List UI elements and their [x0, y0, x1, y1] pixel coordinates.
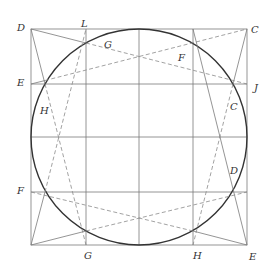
label-e-bottom-right: E: [248, 251, 257, 262]
line-e-to-c-dashed: [45, 29, 247, 81]
label-h-left: H: [39, 105, 49, 116]
line-bl-to-right-solid: [31, 231, 86, 245]
label-g-bottom: G: [84, 250, 92, 261]
line-bl-to-right-dashed: [86, 192, 247, 231]
label-d-right: D: [229, 165, 238, 176]
label-l-top: L: [80, 18, 88, 29]
label-c-right: C: [230, 101, 238, 112]
geometric-diagram: D L C G F E J H C D F G H E: [0, 0, 276, 274]
label-j-right: J: [252, 82, 259, 93]
line-bl-to-l-solid: [31, 192, 45, 245]
line-e-to-f-dashed: [31, 192, 193, 231]
line-d-to-g-solid: [31, 29, 45, 84]
label-g-top: G: [104, 39, 112, 50]
label-f-left: F: [16, 185, 25, 196]
line-c-to-h-solid: [233, 29, 247, 84]
label-f-top: F: [177, 52, 186, 63]
line-d-to-g-dashed: [45, 84, 86, 245]
label-h-bottom: H: [192, 250, 202, 261]
label-d-top-left: D: [16, 22, 25, 33]
line-e-to-f-solid: [193, 231, 247, 245]
label-c-top-right: C: [251, 24, 259, 35]
line-e-to-c-solid: [31, 81, 45, 85]
label-e-left: E: [16, 77, 25, 88]
line-d-to-j-solid: [31, 29, 86, 43]
line-bl-to-l-dashed: [45, 29, 86, 192]
